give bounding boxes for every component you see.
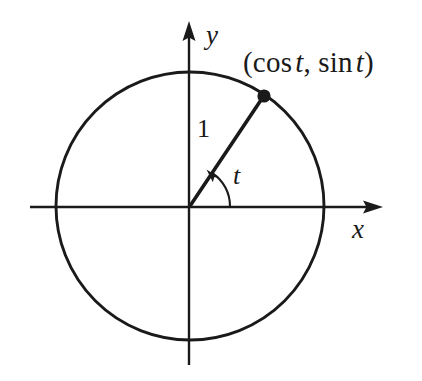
point-label-open-paren: ( — [243, 46, 253, 78]
point-label-sin-argument: t — [356, 46, 364, 78]
terminal-point-dot — [257, 89, 270, 102]
radius-length-label: 1 — [197, 116, 210, 142]
point-label-comma: , — [303, 46, 310, 78]
point-label-sin-operator: sin — [318, 46, 352, 78]
angle-arc — [207, 170, 231, 207]
y-axis-label: y — [206, 22, 218, 49]
x-axis-label: x — [352, 216, 364, 243]
point-label-close-paren: ) — [364, 46, 374, 78]
point-label-cos-operator: cos — [253, 46, 292, 78]
terminal-point-label: (cost, sint) — [243, 48, 374, 77]
x-axis — [30, 201, 383, 214]
angle-arc-path — [213, 173, 230, 206]
unit-circle-figure: y x 1 t (cost, sint) — [0, 0, 422, 381]
angle-label: t — [233, 163, 240, 189]
